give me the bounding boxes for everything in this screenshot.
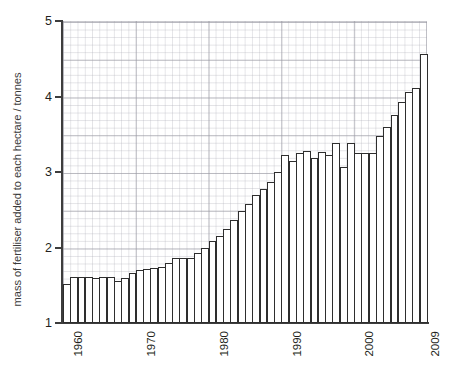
y-tick-mark: [55, 247, 63, 249]
y-tick-label: 5: [12, 14, 52, 28]
bar: [150, 268, 158, 323]
bar: [143, 269, 151, 323]
bar: [230, 220, 238, 323]
bar: [107, 277, 115, 323]
bar: [99, 277, 107, 323]
bar: [332, 143, 340, 323]
x-tick-label: 1960: [72, 331, 84, 357]
x-tick-label: 2000: [363, 331, 375, 357]
bar: [238, 211, 246, 323]
bar: [172, 258, 180, 323]
y-tick-label: 1: [12, 316, 52, 330]
bar: [209, 241, 217, 323]
bar: [318, 152, 326, 323]
bar: [267, 182, 275, 323]
bar: [187, 258, 195, 323]
bar: [245, 204, 253, 323]
bar: [274, 172, 282, 323]
y-tick-mark: [55, 96, 63, 98]
bar: [325, 155, 333, 323]
bar: [281, 155, 289, 323]
bar: [260, 189, 268, 323]
bar: [70, 277, 78, 323]
bar: [405, 92, 413, 323]
bar: [63, 284, 71, 323]
bar: [201, 248, 209, 323]
bar: [376, 136, 384, 323]
bar: [412, 88, 420, 323]
x-tick-label: 1990: [291, 331, 303, 357]
bar: [354, 153, 362, 323]
bar: [296, 153, 304, 323]
bar: [391, 115, 399, 323]
bar: [136, 270, 144, 323]
bar: [129, 273, 137, 323]
bar: [121, 278, 129, 323]
bar: [347, 143, 355, 323]
bar: [383, 127, 391, 323]
bar: [165, 263, 173, 323]
fertiliser-bar-chart: mass of fertiliser added to each hectare…: [0, 0, 456, 379]
y-tick-mark: [55, 322, 63, 324]
bars-layer: [63, 21, 427, 323]
bar: [194, 253, 202, 323]
bar: [92, 278, 100, 323]
bar: [252, 195, 260, 323]
x-tick-label: 1970: [145, 331, 157, 357]
bar: [369, 153, 377, 323]
bar: [85, 277, 93, 323]
y-tick-label: 2: [12, 241, 52, 255]
y-tick-mark: [55, 171, 63, 173]
bar: [361, 153, 369, 323]
bar: [114, 281, 122, 323]
bar: [311, 158, 319, 323]
bar: [420, 54, 428, 323]
bar: [223, 229, 231, 323]
x-tick-label: 1980: [218, 331, 230, 357]
bar: [78, 277, 86, 323]
bar: [216, 236, 224, 323]
bar: [179, 258, 187, 323]
y-tick-mark: [55, 20, 63, 22]
bar: [289, 161, 297, 323]
bar: [158, 267, 166, 323]
y-tick-label: 3: [12, 165, 52, 179]
bar: [340, 167, 348, 323]
bar: [398, 102, 406, 323]
bar: [303, 151, 311, 323]
y-tick-label: 4: [12, 90, 52, 104]
x-tick-label: 2009: [429, 331, 441, 357]
